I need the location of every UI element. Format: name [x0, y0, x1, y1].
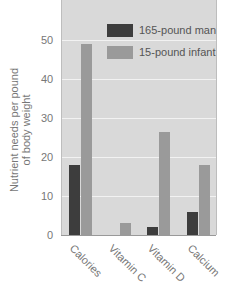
y-tick-label: 20 [41, 151, 50, 163]
y-tick-label: 0 [47, 229, 50, 241]
y-axis-label-line2: of body weight [20, 0, 32, 260]
x-tick-label: Calcium [186, 242, 223, 279]
y-tick-label: 40 [41, 73, 50, 85]
x-tick-label: Vitamin C [107, 242, 149, 284]
y-axis-label-line1: Nutrient needs per pound [8, 0, 20, 260]
legend-swatch-man [107, 24, 133, 37]
legend-item-man: 165-pound man [107, 19, 216, 41]
legend-item-infant: 15-pound infant [107, 41, 216, 63]
legend: 165-pound man 15-pound infant [107, 19, 216, 63]
bar-vitamin-d-man [147, 227, 158, 235]
bar-calcium-man [187, 212, 198, 235]
bar-calcium-infant [199, 165, 210, 235]
legend-swatch-infant [107, 46, 133, 59]
bar-calories-man [69, 165, 80, 235]
y-axis-label: Nutrient needs per pound of body weight [8, 0, 38, 260]
legend-label-infant: 15-pound infant [139, 46, 215, 58]
bar-vitamin-c-infant [120, 223, 131, 235]
y-tick-label: 50 [41, 34, 50, 46]
bar-vitamin-d-infant [159, 132, 170, 235]
legend-label-man: 165-pound man [139, 24, 216, 36]
bar-calories-infant [81, 44, 92, 235]
x-tick-label: Calories [68, 242, 105, 279]
y-tick-label: 30 [41, 112, 50, 124]
x-axis [61, 235, 216, 236]
y-tick-label: 10 [41, 190, 50, 202]
x-tick-label: Vitamin D [146, 242, 188, 284]
